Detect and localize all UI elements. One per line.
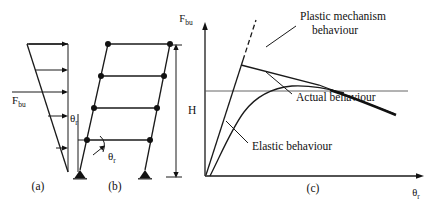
height-label: H	[188, 104, 196, 116]
panel-a-load-label: Fbu	[12, 94, 26, 109]
rotation-label-reference: θr	[70, 112, 78, 127]
load-arrow-2-head	[62, 67, 68, 72]
load-arrow-5-head	[62, 145, 68, 150]
annotation-elastic-leader	[226, 121, 248, 143]
elastic-behaviour-line	[206, 60, 243, 175]
chart-x-axis-arrowhead	[416, 173, 424, 179]
node-right-3	[161, 73, 167, 79]
annotation-plastic-line-1: Plastic mechanism	[300, 10, 386, 22]
node-left-2	[91, 105, 97, 111]
panel-a-group: Fbu (a)	[12, 41, 68, 193]
chart-y-axis-label: Fbu	[179, 13, 193, 27]
panel-c-group: Fbu θr Plastic mechanism behaviour	[179, 10, 424, 201]
load-arrow-3-head	[62, 89, 68, 94]
support-right	[140, 170, 151, 178]
load-arrow-1-head	[62, 41, 68, 46]
panel-b-group: θr θr H (b)	[70, 41, 196, 193]
load-triangle-hypotenuse	[27, 44, 68, 172]
height-dimension-group: H	[166, 44, 196, 178]
chart-y-axis-arrowhead	[202, 22, 208, 30]
load-arrow-4-head	[62, 113, 68, 118]
elastic-behaviour-dashed-extension	[243, 20, 256, 60]
annotation-plastic-line-2: behaviour	[312, 24, 358, 36]
annotation-plastic-mechanism: Plastic mechanism behaviour	[266, 10, 386, 47]
load-arrow-group	[12, 41, 68, 150]
figure-svg: Fbu (a)	[0, 0, 440, 204]
caption-a: (a)	[32, 180, 45, 193]
node-left-1	[84, 137, 90, 143]
caption-c: (c)	[307, 182, 320, 195]
node-left-4	[105, 41, 111, 47]
chart-x-axis-label: θr	[412, 187, 420, 201]
support-left	[75, 170, 86, 178]
annotation-actual-text: Actual behaviour	[296, 91, 376, 103]
annotation-plastic-leader	[266, 26, 296, 47]
caption-b: (b)	[108, 180, 122, 193]
node-right-1	[147, 137, 153, 143]
rotation-label-base: θr	[108, 150, 116, 165]
node-left-3	[98, 73, 104, 79]
annotation-elastic-text: Elastic behaviour	[252, 140, 332, 152]
node-right-4	[167, 41, 173, 47]
annotation-elastic-behaviour: Elastic behaviour	[226, 121, 332, 152]
figure-container: Fbu (a)	[0, 0, 440, 204]
node-right-2	[154, 105, 160, 111]
